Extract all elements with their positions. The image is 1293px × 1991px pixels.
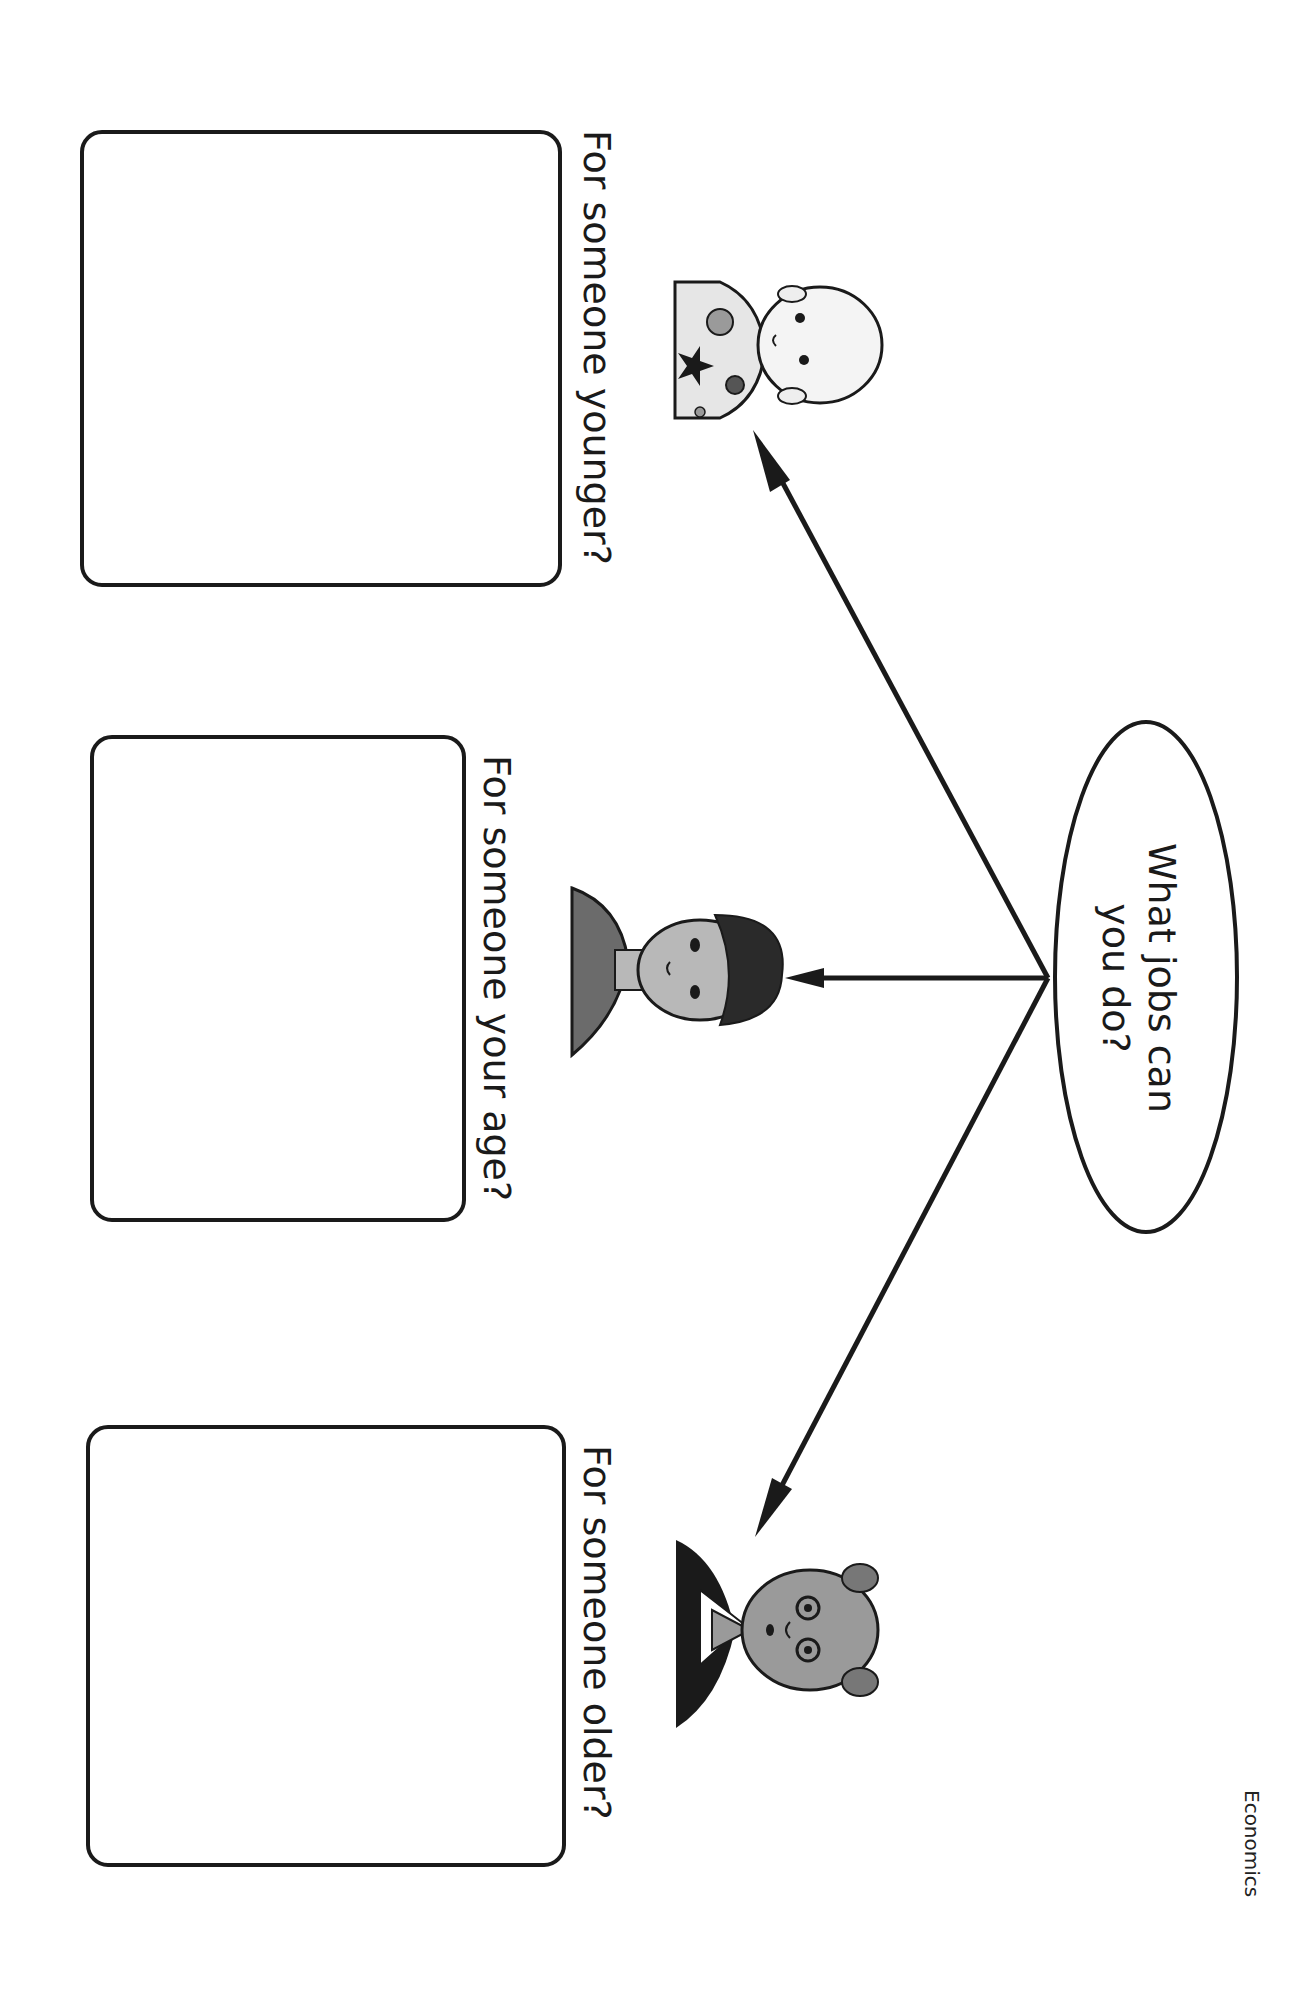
subject-footer: Economics xyxy=(1240,1790,1264,1897)
label-older: For someone older? xyxy=(578,1445,616,1820)
label-younger: For someone younger? xyxy=(578,130,616,565)
arrow-to-older xyxy=(755,978,1048,1537)
older-man-figure-icon xyxy=(676,1540,878,1728)
answer-box-younger[interactable] xyxy=(80,130,562,587)
child-figure-icon xyxy=(572,888,783,1055)
central-question-text: What jobs can you do? xyxy=(1093,833,1185,1123)
label-same-age: For someone your age? xyxy=(478,755,516,1201)
arrow-to-same-age xyxy=(785,968,1048,988)
baby-figure-icon xyxy=(675,282,882,418)
arrow-to-younger xyxy=(753,430,1048,978)
central-question-line1: What jobs can xyxy=(1139,833,1185,1123)
answer-box-older[interactable] xyxy=(86,1425,566,1867)
central-question-line2: you do? xyxy=(1093,833,1139,1123)
answer-box-same-age[interactable] xyxy=(90,735,466,1222)
